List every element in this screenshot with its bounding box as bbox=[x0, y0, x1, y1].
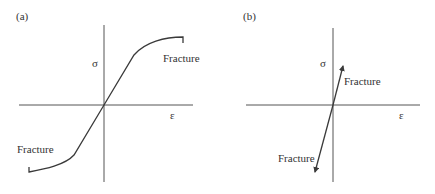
panel-b-plot bbox=[0, 0, 435, 194]
sigma-label: σ bbox=[320, 58, 326, 69]
fracture-label-lower: Fracture bbox=[278, 153, 315, 164]
panel-b: (b) σ ε Fracture Fracture bbox=[0, 0, 435, 194]
fracture-label-upper: Fracture bbox=[344, 76, 381, 87]
panel-label: (b) bbox=[243, 11, 256, 22]
brittle-line-lower bbox=[315, 105, 333, 172]
epsilon-label: ε bbox=[399, 110, 404, 121]
brittle-line-upper bbox=[333, 66, 343, 105]
